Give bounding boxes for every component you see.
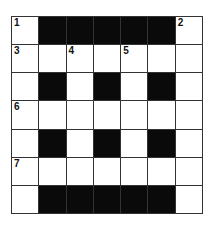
- answer-cell[interactable]: [12, 130, 38, 157]
- black-cell: [148, 130, 174, 157]
- answer-cell[interactable]: 1: [12, 17, 38, 44]
- answer-cell[interactable]: [176, 186, 202, 213]
- black-cell: [94, 73, 120, 100]
- answer-cell[interactable]: 6: [12, 101, 38, 128]
- answer-cell[interactable]: [12, 186, 38, 213]
- answer-cell[interactable]: [148, 45, 174, 72]
- answer-cell[interactable]: [67, 158, 93, 185]
- answer-cell[interactable]: [176, 158, 202, 185]
- black-cell: [94, 17, 120, 44]
- clue-number: 7: [14, 159, 20, 169]
- answer-cell[interactable]: [39, 158, 65, 185]
- answer-cell[interactable]: 4: [67, 45, 93, 72]
- answer-cell[interactable]: [176, 45, 202, 72]
- answer-cell[interactable]: [39, 45, 65, 72]
- black-cell: [148, 73, 174, 100]
- black-cell: [39, 186, 65, 213]
- clue-number: 5: [123, 46, 129, 56]
- clue-number: 4: [69, 46, 75, 56]
- answer-cell[interactable]: [67, 73, 93, 100]
- answer-cell[interactable]: 7: [12, 158, 38, 185]
- black-cell: [67, 17, 93, 44]
- answer-cell[interactable]: [12, 73, 38, 100]
- answer-cell[interactable]: [121, 73, 147, 100]
- black-cell: [39, 73, 65, 100]
- answer-cell[interactable]: [148, 158, 174, 185]
- answer-cell[interactable]: [94, 101, 120, 128]
- black-cell: [94, 186, 120, 213]
- clue-number: 1: [14, 18, 20, 28]
- black-cell: [94, 130, 120, 157]
- answer-cell[interactable]: [121, 158, 147, 185]
- black-cell: [39, 130, 65, 157]
- answer-cell[interactable]: [121, 101, 147, 128]
- answer-cell[interactable]: [39, 101, 65, 128]
- answer-cell[interactable]: 5: [121, 45, 147, 72]
- answer-cell[interactable]: [121, 130, 147, 157]
- clue-number: 2: [178, 18, 184, 28]
- black-cell: [39, 17, 65, 44]
- clue-number: 3: [14, 46, 20, 56]
- black-cell: [121, 17, 147, 44]
- clue-number: 6: [14, 102, 20, 112]
- answer-cell[interactable]: 2: [176, 17, 202, 44]
- answer-cell[interactable]: [67, 101, 93, 128]
- answer-cell[interactable]: [94, 158, 120, 185]
- answer-cell[interactable]: [94, 45, 120, 72]
- black-cell: [148, 186, 174, 213]
- answer-cell[interactable]: [148, 101, 174, 128]
- black-cell: [67, 186, 93, 213]
- black-cell: [121, 186, 147, 213]
- answer-cell[interactable]: 3: [12, 45, 38, 72]
- crossword-grid: 1234567: [11, 16, 203, 214]
- answer-cell[interactable]: [176, 101, 202, 128]
- answer-cell[interactable]: [176, 73, 202, 100]
- answer-cell[interactable]: [67, 130, 93, 157]
- answer-cell[interactable]: [176, 130, 202, 157]
- black-cell: [148, 17, 174, 44]
